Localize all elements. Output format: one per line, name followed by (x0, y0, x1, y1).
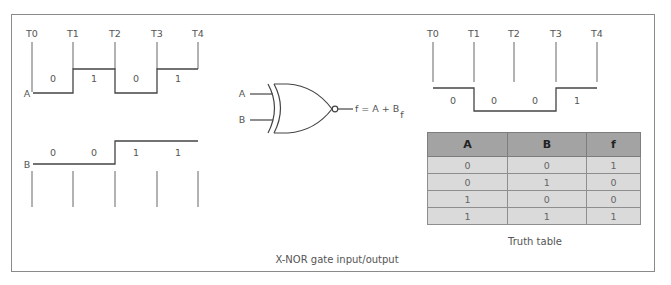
f-timeline-label-t2: T2 (508, 29, 520, 39)
table-cell: 0 (428, 157, 508, 174)
timeline-label-t1: T1 (67, 29, 79, 39)
table-cell: 0 (507, 157, 586, 174)
truth-table-header-row: A B f (428, 133, 641, 157)
signal-b-bit-2: 0 (91, 148, 97, 158)
timeline-label-t0: T0 (26, 29, 38, 39)
table-cell: 1 (586, 157, 640, 174)
signal-a-waveform (33, 69, 198, 93)
truth-table-header-b: B (507, 133, 586, 157)
signal-b-bit-3: 1 (133, 148, 139, 158)
table-cell: 0 (428, 174, 508, 191)
f-timeline-label-t3: T3 (550, 29, 562, 39)
table-row: 1 0 0 (428, 191, 641, 208)
signal-f-name: f (400, 110, 403, 120)
table-row: 1 1 1 (428, 208, 641, 225)
signal-f-bit-1: 0 (450, 96, 456, 106)
table-cell: 1 (586, 208, 640, 225)
signal-a-bit-1: 0 (50, 74, 56, 84)
table-row: 0 1 0 (428, 174, 641, 191)
table-cell: 1 (428, 208, 508, 225)
f-timeline-label-t4: T4 (591, 29, 603, 39)
signal-f-bit-4: 1 (574, 96, 580, 106)
signal-f-waveform (433, 88, 597, 111)
timeline-label-t4: T4 (192, 29, 204, 39)
f-timeline-label-t0: T0 (427, 29, 439, 39)
signal-b-bit-4: 1 (175, 148, 181, 158)
signal-a-bit-4: 1 (175, 74, 181, 84)
truth-table: A B f 0 0 1 0 1 0 1 0 0 1 1 1 (427, 132, 641, 225)
signal-a-name: A (24, 89, 31, 99)
table-cell: 0 (586, 191, 640, 208)
gate-input-b-label: B (239, 115, 246, 125)
table-cell: 1 (507, 208, 586, 225)
signal-a-bit-3: 0 (133, 74, 139, 84)
truth-table-caption: Truth table (508, 236, 562, 247)
gate-input-a-label: A (239, 89, 246, 99)
signal-b-waveform (33, 141, 198, 164)
table-cell: 0 (507, 191, 586, 208)
signal-b-bit-1: 0 (50, 148, 56, 158)
table-cell: 1 (507, 174, 586, 191)
signal-a-bit-2: 1 (91, 74, 97, 84)
signal-b-name: B (24, 160, 31, 170)
table-cell: 0 (586, 174, 640, 191)
table-cell: 1 (428, 191, 508, 208)
signal-f-ticks (433, 42, 597, 82)
f-timeline-label-t1: T1 (468, 29, 480, 39)
timeline-label-t3: T3 (151, 29, 163, 39)
signal-b-ticks (32, 171, 198, 207)
truth-table-header-f: f (586, 133, 640, 157)
signal-f-bit-3: 0 (532, 96, 538, 106)
figure-caption: X-NOR gate input/output (275, 254, 398, 265)
timeline-label-t2: T2 (109, 29, 121, 39)
signal-f-bit-2: 0 (491, 96, 497, 106)
table-row: 0 0 1 (428, 157, 641, 174)
gate-output-expression: f = A + B (355, 104, 399, 114)
truth-table-header-a: A (428, 133, 508, 157)
xnor-gate-symbol (250, 84, 353, 133)
